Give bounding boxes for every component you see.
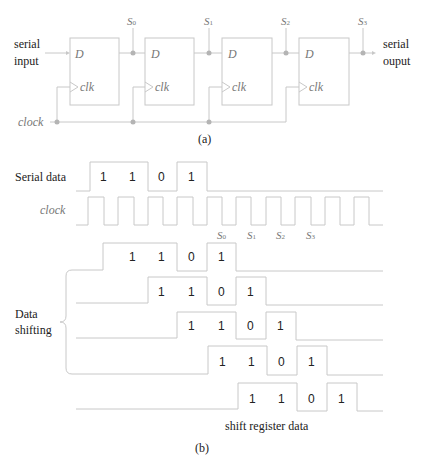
- caption-a: (a): [198, 132, 211, 146]
- input-arrow-icon: [66, 51, 70, 55]
- serial-output-label-line1: serial: [383, 37, 410, 51]
- circuit-diagram: serial input D D D D clk clk clk clk: [14, 15, 411, 146]
- svg-text:1: 1: [158, 250, 165, 264]
- svg-text:1: 1: [277, 319, 284, 333]
- shift-row-5: 1 1 0 1: [76, 383, 383, 411]
- ff3-d-label: D: [304, 47, 314, 61]
- data-shifting-label-line2: shifting: [15, 323, 52, 337]
- serial-input-label-line1: serial: [14, 37, 41, 51]
- clock-branch-ff2: [209, 87, 222, 122]
- marker-s0: S0: [217, 229, 227, 241]
- svg-text:1: 1: [249, 392, 256, 406]
- clock-dot-0: [55, 120, 60, 125]
- caption-b: (b): [195, 441, 209, 455]
- data-shifting-label-line1: Data: [15, 307, 38, 321]
- clock-dot-2: [207, 120, 212, 125]
- svg-text:0: 0: [247, 319, 254, 333]
- svg-text:1: 1: [247, 285, 254, 299]
- output-arrow-icon: [372, 51, 376, 55]
- data-shifting-brace: [60, 270, 72, 374]
- ff2-d-label: D: [227, 47, 237, 61]
- serial-bit-0: 1: [100, 170, 107, 184]
- svg-text:1: 1: [218, 250, 225, 264]
- ff0-d-label: D: [74, 47, 84, 61]
- shift-register-figure: serial input D D D D clk clk clk clk: [0, 0, 425, 469]
- timing-diagram: Serial data 1 1 0 1 clock S0 S1 S2 S3 Da…: [15, 162, 383, 455]
- svg-text:1: 1: [129, 250, 136, 264]
- marker-s1: S1: [247, 229, 257, 241]
- clock-dot-1: [131, 120, 136, 125]
- svg-text:1: 1: [158, 285, 165, 299]
- shift-register-data-label: shift register data: [225, 419, 309, 433]
- shift-row-1: 1 1 0 1: [72, 243, 383, 271]
- serial-data-label: Serial data: [15, 170, 67, 184]
- svg-text:0: 0: [278, 355, 285, 369]
- shift-row-4: 1 1 0 1: [72, 346, 383, 375]
- clock-waveform: [76, 197, 383, 225]
- s2-junction-dot: [284, 51, 289, 56]
- svg-text:1: 1: [308, 355, 315, 369]
- clock-branch-ff0: [57, 87, 70, 122]
- marker-s2: S2: [276, 229, 286, 241]
- clock-label: clock: [18, 115, 44, 129]
- serial-input-label-line2: input: [14, 54, 39, 68]
- s3-junction-dot: [361, 51, 366, 56]
- s1-label: S1: [204, 15, 214, 27]
- svg-text:1: 1: [278, 392, 285, 406]
- s2-label: S2: [281, 15, 291, 27]
- s0-label: S0: [127, 15, 137, 27]
- svg-text:1: 1: [219, 355, 226, 369]
- svg-text:0: 0: [188, 250, 195, 264]
- ff1-d-label: D: [150, 47, 160, 61]
- s3-label: S3: [358, 15, 368, 27]
- serial-data-waveform: [76, 162, 383, 191]
- ff0-clk-label: clk: [80, 80, 95, 94]
- timing-clock-label: clock: [40, 203, 66, 217]
- marker-s3: S3: [306, 229, 316, 241]
- serial-bit-3: 1: [188, 170, 195, 184]
- ff2-clk-label: clk: [232, 80, 247, 94]
- ff3-clk-label: clk: [309, 80, 324, 94]
- serial-output-label-line2: ouput: [383, 54, 411, 68]
- svg-text:0: 0: [218, 285, 225, 299]
- clock-branch-ff1: [133, 87, 145, 122]
- serial-bit-2: 0: [158, 170, 165, 184]
- clock-branch-ff3: [286, 87, 299, 122]
- s0-junction-dot: [131, 51, 136, 56]
- svg-text:1: 1: [188, 285, 195, 299]
- svg-text:1: 1: [248, 355, 255, 369]
- s1-junction-dot: [207, 51, 212, 56]
- svg-text:1: 1: [218, 319, 225, 333]
- svg-text:1: 1: [188, 319, 195, 333]
- shift-row-3: 1 1 0 1: [76, 312, 383, 340]
- svg-text:0: 0: [308, 392, 315, 406]
- shift-row-2: 1 1 0 1: [76, 277, 383, 305]
- ff1-clk-label: clk: [155, 80, 170, 94]
- svg-text:1: 1: [338, 392, 345, 406]
- serial-bit-1: 1: [129, 170, 136, 184]
